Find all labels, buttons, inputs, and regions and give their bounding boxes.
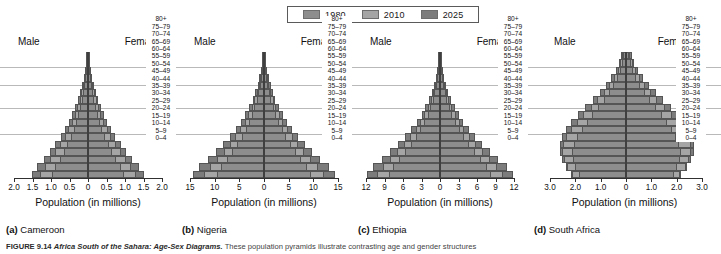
legend-item-2010: 2010 [362,10,405,20]
x-tick [626,178,627,182]
x-tick-label: 1.0 [646,183,657,192]
pyramid-half-male [550,96,626,103]
bar-male-1980 [67,141,88,148]
pyramid-half-male [550,104,626,111]
bar-male-1980 [598,104,626,111]
pyramid-half-female [440,141,514,148]
age-group-labels-south-africa: 80+75–7970–7465–6960–6455–5950–5445–4940… [676,16,706,142]
bar-female-1980 [88,104,96,111]
x-tick [338,178,339,182]
pyramid-half-male [190,111,264,118]
figure-title: Africa South of the Sahara: Age-Sex Diag… [54,242,223,251]
age-group-labels-nigeria: 80+75–7970–7465–6960–6455–5950–5445–4940… [322,16,352,142]
x-tick [440,178,441,182]
bar-male-1980 [604,96,626,103]
pyramid-half-male [14,96,88,103]
bar-female-1980 [88,171,124,178]
pyramid-half-female [440,148,514,155]
bar-female-1980 [88,82,92,89]
bar-male-1980 [428,111,440,118]
bar-male-1980 [249,119,264,126]
pyramid-half-male [190,119,264,126]
x-tick-label: 2.0 [570,183,581,192]
pyramid-half-female [264,171,338,178]
x-tick-label: 0 [262,183,267,192]
pyramid-half-male [190,96,264,103]
pyramid-half-male [14,119,88,126]
x-tick-label: 15 [185,183,194,192]
pyramid-half-female [88,156,162,163]
x-tick [125,178,126,182]
x-tick [239,178,240,182]
bar-female-1980 [626,104,656,111]
x-tick-label: 2.0 [671,183,682,192]
x-tick [496,178,497,182]
pyramid-half-male [14,148,88,155]
panel-caption-ethiopia: (c) Ethiopia [358,224,407,235]
pyramid-half-male [14,89,88,96]
bar-male-1980 [389,171,440,178]
age-group-label: 10–14 [146,120,176,127]
pyramid-half-male [190,89,264,96]
x-tick-label: 1.0 [45,183,56,192]
chart-legend: 1980 2010 2025 [287,6,479,23]
bar-female-1980 [88,133,105,140]
bar-male-1980 [64,148,88,155]
x-tick-labels-nigeria: 15105051015 [176,183,352,195]
panel-caption-nigeria: (b) Nigeria [182,224,227,235]
male-label: Male [370,36,392,47]
bar-female-1980 [440,156,481,163]
pyramid-half-male [190,82,264,89]
x-tick-label: 0.5 [101,183,112,192]
x-tick-label: 3 [456,183,461,192]
x-tick [702,178,703,182]
plot-area-nigeria [190,52,338,178]
bar-female-1980 [626,96,650,103]
x-axis-title-ethiopia: Population (in millions) [352,196,528,208]
bar-female-1980 [440,148,475,155]
x-tick-label: 0 [438,183,443,192]
bar-female-1980 [440,89,446,96]
pyramid-half-male [550,119,626,126]
pyramid-half-male [550,89,626,96]
x-tick [190,178,191,182]
bar-male-1980 [572,148,626,155]
age-group-label: 10–14 [322,120,352,127]
panel-name-nigeria: Nigeria [197,224,227,235]
pyramid-half-male [550,163,626,170]
x-tick-label: 1.0 [119,183,130,192]
x-tick-label: 5 [237,183,242,192]
panel-name-south-africa: South Africa [549,224,600,235]
pyramid-half-male [366,67,440,74]
x-tick [677,178,678,182]
bar-female-1980 [264,141,291,148]
x-tick [477,178,478,182]
x-tick [601,178,602,182]
bar-male-1980 [71,133,88,140]
x-tick [51,178,52,182]
x-tick-label: 1.5 [27,183,38,192]
bar-female-1980 [440,104,450,111]
center-axis-line [626,52,627,178]
plot-area-cameroon [14,52,162,178]
pyramid-half-male [366,52,440,59]
bar-male-1980 [74,126,88,133]
population-pyramid-figure: 1980 2010 2025 Male Female 2.01.51.00.50… [0,0,721,254]
pyramid-half-female [264,156,338,163]
x-axis-title-cameroon: Population (in millions) [0,196,176,208]
x-tick [14,178,15,182]
bar-male-1980 [579,171,626,178]
age-group-label: 0–4 [676,135,706,142]
pyramid-half-male [366,141,440,148]
x-tick-label: 15 [333,183,342,192]
bar-female-1980 [264,104,274,111]
x-tick [403,178,404,182]
pyramid-half-male [366,156,440,163]
x-tick-label: 0.5 [64,183,75,192]
bar-male-1980 [232,148,264,155]
age-group-label: 0–4 [498,135,528,142]
bar-male-1980 [227,156,264,163]
x-tick-label: 10 [210,183,219,192]
age-group-labels-ethiopia: 80+75–7970–7465–6960–6455–5950–5445–4940… [498,16,528,142]
x-tick-labels-south-africa: 3.02.01.001.02.03.0 [528,183,704,195]
